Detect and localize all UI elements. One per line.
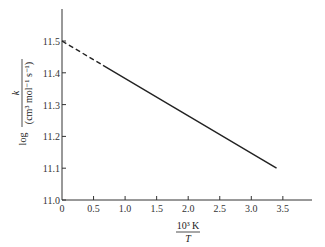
x-tick-label: 2.5: [214, 203, 227, 214]
y-label-prefix: log: [17, 133, 28, 146]
y-axis-label: log k (cm³ mol⁻¹ s⁻¹): [10, 59, 35, 145]
x-label-denominator: T: [185, 233, 192, 244]
y-tick-label: 11.3: [43, 100, 60, 111]
y-tick-label: 11.1: [43, 163, 60, 174]
arrhenius-chart: 00.51.01.52.02.53.03.5 11.011.111.211.31…: [0, 0, 325, 247]
x-tick-label: 0.5: [87, 203, 100, 214]
extrapolated-line: [62, 41, 103, 65]
x-tick-label: 2.0: [182, 203, 195, 214]
data-line: [103, 65, 277, 168]
x-tick-label: 3.0: [245, 203, 258, 214]
x-tick-label: 0: [60, 203, 65, 214]
x-label-numerator: 10³ K: [177, 220, 200, 231]
y-label-denominator: (cm³ mol⁻¹ s⁻¹): [23, 62, 35, 124]
x-axis-label: 10³ K T: [176, 220, 200, 244]
axes: [62, 9, 312, 200]
y-tick-label: 11.0: [43, 195, 60, 206]
x-tick-label: 1.5: [150, 203, 163, 214]
y-label-numerator: k: [10, 90, 21, 95]
y-tick-label: 11.4: [43, 68, 60, 79]
data-series: [62, 41, 277, 168]
y-ticks: 11.011.111.211.311.411.5: [43, 36, 66, 206]
y-tick-label: 11.2: [43, 131, 60, 142]
x-tick-label: 1.0: [119, 203, 132, 214]
y-tick-label: 11.5: [43, 36, 60, 47]
x-tick-label: 3.5: [277, 203, 290, 214]
x-ticks: 00.51.01.52.02.53.03.5: [60, 196, 290, 214]
